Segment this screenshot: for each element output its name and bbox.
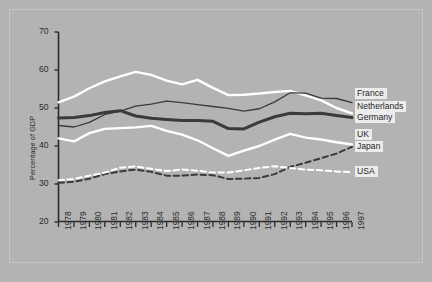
legend-item-france[interactable]: France <box>355 88 387 99</box>
series-line-uk <box>59 126 353 156</box>
chart-figure: Percentage of GDP 706050403020 197819791… <box>0 0 432 282</box>
series-paths <box>59 72 353 183</box>
legend-item-germany[interactable]: Germany <box>355 112 395 123</box>
legend-item-japan[interactable]: Japan <box>355 141 383 152</box>
x-axis-ticks <box>59 222 353 227</box>
series-line-france <box>59 72 353 113</box>
legend-item-uk[interactable]: UK <box>355 129 372 140</box>
legend-item-usa[interactable]: USA <box>355 166 378 177</box>
series-line-japan <box>59 147 353 183</box>
legend-item-netherlands[interactable]: Netherlands <box>355 101 406 112</box>
series-line-germany <box>59 111 353 129</box>
series-line-usa <box>59 166 353 180</box>
axis-lines <box>58 32 352 222</box>
